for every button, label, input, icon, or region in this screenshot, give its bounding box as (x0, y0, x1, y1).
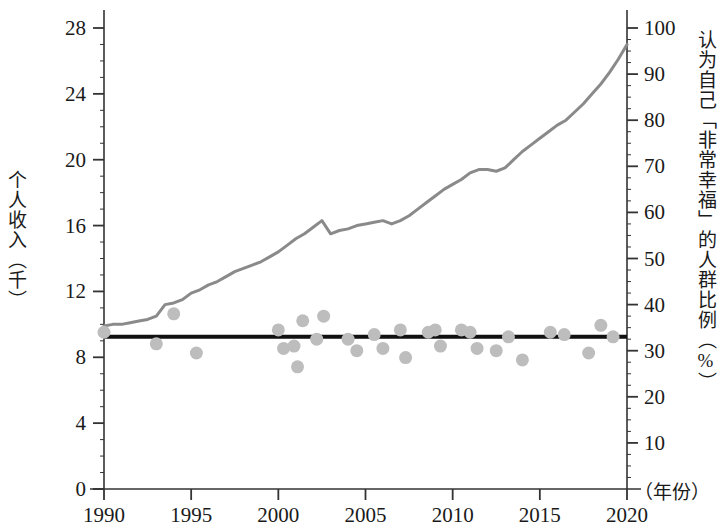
left-tick-label: 24 (65, 82, 87, 106)
left-tick-label: 8 (76, 345, 87, 369)
scatter-point (291, 360, 304, 373)
left-tick-label: 12 (65, 279, 86, 303)
scatter-point (317, 310, 330, 323)
scatter-point (471, 342, 484, 355)
scatter-point (310, 333, 323, 346)
scatter-point (490, 344, 503, 357)
right-tick-label: 50 (644, 247, 665, 271)
scatter-point (272, 323, 285, 336)
scatter-point (544, 326, 557, 339)
right-tick-label: 30 (644, 339, 665, 363)
scatter-point (376, 342, 389, 355)
bottom-tick-label: 1995 (170, 503, 212, 527)
bottom-tick-label: 2000 (257, 503, 299, 527)
right-tick-label: 10 (644, 431, 665, 455)
scatter-point (350, 344, 363, 357)
right-axis-title: 认为自己「非常幸福」的人群比例（%） (696, 30, 715, 392)
scatter-point (288, 340, 301, 353)
scatter-point (464, 326, 477, 339)
scatter-point (399, 351, 412, 364)
scatter-point (167, 307, 180, 320)
left-tick-label: 20 (65, 148, 86, 172)
chart-root: 0481216202428 102030405060708090100 1990… (0, 0, 719, 528)
scatter-point (434, 340, 447, 353)
scatter-point (190, 347, 203, 360)
left-tick-label: 4 (76, 411, 87, 435)
scatter-point (368, 328, 381, 341)
scatter-point (342, 333, 355, 346)
right-tick-label: 20 (644, 385, 665, 409)
chart-canvas: 0481216202428 102030405060708090100 1990… (0, 0, 719, 528)
scatter-point (558, 328, 571, 341)
scatter-point (296, 314, 309, 327)
bottom-tick-label: 2005 (345, 503, 387, 527)
left-tick-label: 28 (65, 16, 86, 40)
scatter-point (607, 330, 620, 343)
bottom-tick-label: 2010 (432, 503, 474, 527)
scatter-point (98, 326, 111, 339)
bottom-tick-label: 2015 (519, 503, 561, 527)
right-tick-label: 60 (644, 200, 665, 224)
bottom-tick-label: 2020 (606, 503, 648, 527)
right-tick-label: 40 (644, 293, 665, 317)
left-axis-title: 个人收入（千） (6, 170, 25, 310)
scatter-point (150, 337, 163, 350)
left-tick-label: 0 (76, 477, 87, 501)
scatter-point (516, 353, 529, 366)
left-tick-label: 16 (65, 214, 86, 238)
x-axis-unit-label: （年份） (634, 477, 710, 504)
right-tick-label: 70 (644, 154, 665, 178)
scatter-point (394, 323, 407, 336)
right-tick-label: 80 (644, 108, 665, 132)
scatter-point (502, 330, 515, 343)
scatter-point (594, 319, 607, 332)
scatter-point (429, 323, 442, 336)
right-tick-label: 90 (644, 62, 665, 86)
bottom-tick-label: 1990 (83, 503, 125, 527)
scatter-point (582, 347, 595, 360)
chart-background (0, 0, 719, 528)
right-tick-label: 100 (644, 16, 676, 40)
